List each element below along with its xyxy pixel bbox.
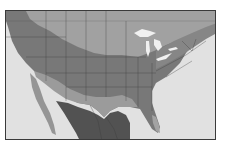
map-frame	[5, 10, 216, 140]
us-map	[6, 11, 216, 140]
texture-overlay	[6, 11, 216, 140]
